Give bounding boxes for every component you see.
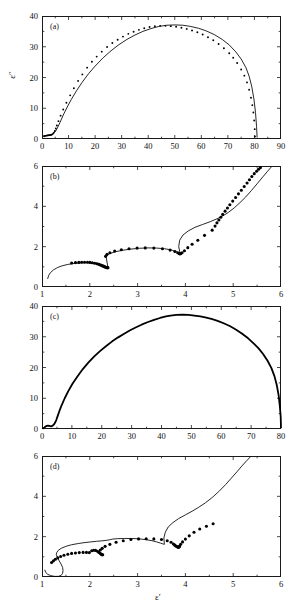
xtick-label: 1	[40, 290, 44, 299]
xtick-label: 3	[135, 290, 139, 299]
xtick-label: 0	[40, 432, 44, 441]
panel-d-series	[45, 457, 251, 577]
panel-c-plot	[42, 306, 281, 429]
panel-a-series	[43, 25, 257, 138]
ytick-label: 20	[16, 363, 38, 372]
xtick-label: 30	[127, 432, 136, 441]
xtick-label: 50	[171, 142, 180, 151]
xtick-label: 80	[250, 142, 259, 151]
panel-d-plot	[42, 456, 281, 577]
ytick-label: 10	[16, 104, 38, 113]
panel-b-ticks	[42, 166, 281, 287]
xtick-label: 0	[40, 142, 44, 151]
xtick-label: 40	[144, 142, 153, 151]
panel-c-series	[43, 315, 281, 429]
xtick-label: 3	[135, 580, 139, 589]
xtick-label: 80	[277, 432, 286, 441]
xtick-label: 60	[217, 432, 226, 441]
panel-c-tag: (c)	[50, 312, 59, 321]
panel-a-plot	[42, 16, 281, 139]
xtick-label: 70	[224, 142, 233, 151]
ytick-label: 2	[16, 242, 38, 251]
panel-d-svg	[42, 456, 281, 577]
figure-cole-cole-panels: (a) ε″ 0102030405060708090 010203040 (b)…	[0, 0, 295, 612]
ytick-label: 10	[16, 394, 38, 403]
xtick-label: 10	[64, 142, 73, 151]
xtick-label: 6	[279, 580, 283, 589]
ytick-label: 4	[16, 492, 38, 501]
panel-d-xlabel: ε′	[155, 592, 161, 602]
xtick-label: 5	[231, 290, 235, 299]
panel-a-tag: (a)	[50, 22, 59, 31]
xtick-label: 6	[279, 290, 283, 299]
panel-d-ticks	[42, 456, 281, 577]
xtick-label: 50	[187, 432, 196, 441]
xtick-label: 5	[231, 580, 235, 589]
ytick-label: 6	[16, 452, 38, 461]
ytick-label: 0	[16, 425, 38, 434]
ytick-label: 2	[16, 532, 38, 541]
xtick-label: 4	[183, 580, 187, 589]
panel-b-tag: (b)	[50, 172, 59, 181]
xtick-label: 20	[98, 432, 107, 441]
panel-c-ticks	[42, 306, 281, 429]
xtick-label: 1	[40, 580, 44, 589]
panel-b-series	[48, 166, 272, 278]
ytick-label: 0	[16, 573, 38, 582]
xtick-label: 2	[88, 290, 92, 299]
xtick-label: 20	[91, 142, 100, 151]
xtick-label: 30	[117, 142, 126, 151]
ytick-label: 20	[16, 73, 38, 82]
xtick-label: 4	[183, 290, 187, 299]
ytick-label: 30	[16, 333, 38, 342]
xtick-label: 90	[277, 142, 286, 151]
panel-a-ticks	[42, 16, 281, 139]
ytick-label: 4	[16, 202, 38, 211]
panel-b-svg	[42, 166, 281, 287]
panel-a-svg	[42, 16, 281, 139]
xtick-label: 2	[88, 580, 92, 589]
ytick-label: 40	[16, 12, 38, 21]
panel-d-tag: (d)	[50, 462, 59, 471]
xtick-label: 40	[157, 432, 166, 441]
ytick-label: 0	[16, 283, 38, 292]
xtick-label: 70	[247, 432, 256, 441]
ytick-label: 30	[16, 43, 38, 52]
ytick-label: 6	[16, 162, 38, 171]
ytick-label: 0	[16, 135, 38, 144]
panel-c-svg	[42, 306, 281, 429]
xtick-label: 10	[68, 432, 77, 441]
xtick-label: 60	[197, 142, 206, 151]
panel-b-plot	[42, 166, 281, 287]
ytick-label: 40	[16, 302, 38, 311]
